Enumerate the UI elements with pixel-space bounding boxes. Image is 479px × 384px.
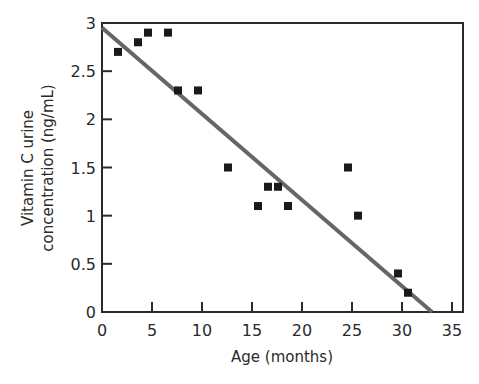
- data-point-marker: [274, 183, 282, 191]
- y-tick-label: 1.5: [71, 159, 96, 178]
- y-tick-label: 0: [86, 303, 96, 322]
- data-point-marker: [114, 48, 122, 56]
- axes: [102, 23, 463, 312]
- plot-frame: [102, 23, 463, 312]
- data-point-marker: [344, 164, 352, 172]
- x-tick-label: 5: [147, 321, 157, 340]
- data-point-marker: [194, 86, 202, 94]
- x-tick-label: 0: [97, 321, 107, 340]
- data-point-marker: [134, 38, 142, 46]
- x-tick-label: 35: [442, 321, 462, 340]
- scatter-chart: 0510152025303500.511.522.53 Age (months)…: [0, 0, 479, 384]
- y-tick-label: 2: [86, 110, 96, 129]
- y-tick-label: 1: [86, 207, 96, 226]
- data-point-marker: [164, 29, 172, 37]
- x-tick-label: 10: [192, 321, 212, 340]
- data-point-marker: [224, 164, 232, 172]
- data-point-marker: [284, 202, 292, 210]
- ticks: 0510152025303500.511.522.53: [71, 14, 463, 340]
- trend-line: [102, 28, 432, 312]
- x-tick-label: 25: [342, 321, 362, 340]
- y-axis-label: Vitamin C urine concentration (ng/mL): [19, 84, 57, 251]
- x-tick-label: 20: [292, 321, 312, 340]
- data-point-marker: [264, 183, 272, 191]
- data-point-marker: [144, 29, 152, 37]
- y-axis-label-line2: concentration (ng/mL): [39, 84, 57, 251]
- data-point-marker: [354, 212, 362, 220]
- regression-line: [102, 28, 432, 312]
- x-tick-label: 30: [392, 321, 412, 340]
- data-point-marker: [394, 269, 402, 277]
- y-tick-label: 3: [86, 14, 96, 33]
- data-point-marker: [404, 289, 412, 297]
- y-axis-label-line1: Vitamin C urine: [19, 110, 37, 226]
- data-point-marker: [174, 86, 182, 94]
- x-tick-label: 15: [242, 321, 262, 340]
- x-axis-label: Age (months): [231, 348, 333, 366]
- data-point-marker: [254, 202, 262, 210]
- y-tick-label: 2.5: [71, 62, 96, 81]
- y-tick-label: 0.5: [71, 255, 96, 274]
